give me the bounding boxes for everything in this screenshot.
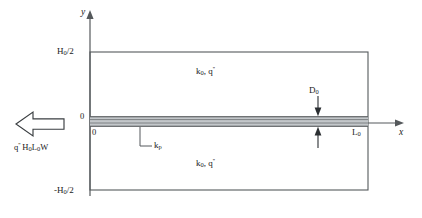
origin-x-label: 0 xyxy=(92,128,96,137)
figure-canvas: y x H0/2 -H0/2 0 0 L0 k0, q'' k0, q'' kp… xyxy=(0,0,422,218)
plate-conductivity-label: kp xyxy=(154,141,162,151)
plate-conductivity-leader xyxy=(140,127,152,146)
x-right-tick-label: L0 xyxy=(352,128,361,138)
origin-y-label: 0 xyxy=(80,112,84,121)
heat-flux-label: q'' H0L0W xyxy=(14,142,48,153)
plate-band xyxy=(90,117,368,127)
thickness-arrow-lower-head xyxy=(315,127,322,136)
heat-flux-arrow xyxy=(16,112,64,136)
plate-thickness-label: D0 xyxy=(309,86,319,96)
plate-fill xyxy=(90,117,368,127)
upper-region-label: k0, q'' xyxy=(196,66,215,77)
x-axis-arrowhead xyxy=(395,119,404,126)
lower-region-label: k0, q'' xyxy=(196,158,215,169)
y-top-tick-label: H0/2 xyxy=(57,47,74,57)
y-bottom-tick-label: -H0/2 xyxy=(54,186,74,196)
y-axis-label: y xyxy=(81,8,85,18)
y-axis-arrowhead xyxy=(86,10,93,19)
x-axis-label: x xyxy=(399,128,403,138)
thickness-arrow-upper-head xyxy=(315,108,322,117)
